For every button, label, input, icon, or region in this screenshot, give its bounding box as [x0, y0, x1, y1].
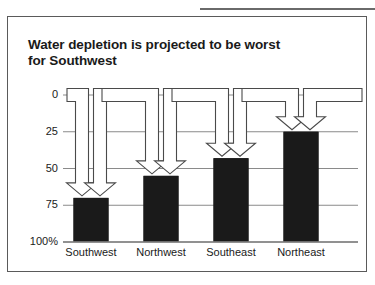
chart-title: Water depletion is projected to be worst… [28, 37, 328, 69]
x-axis-tick-label: Northeast [256, 246, 346, 258]
y-axis-tick-label: 25 [20, 125, 58, 137]
y-axis-tick-label: 0 [20, 88, 58, 100]
header-rule [200, 8, 375, 10]
y-axis-tick-label: 75 [20, 198, 58, 210]
y-axis-tick-label: 50 [20, 162, 58, 174]
chart-figure: Water depletion is projected to be worst… [0, 0, 375, 285]
